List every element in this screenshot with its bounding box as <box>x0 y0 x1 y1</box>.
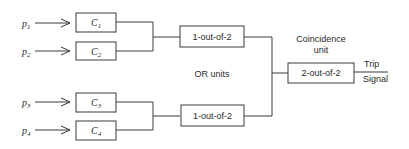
coincidence-unit-label: 2-out-of-2 <box>301 68 340 78</box>
output-label-trip: Trip <box>364 59 379 69</box>
input-label-p3: p3 <box>21 97 31 110</box>
voting-logic-diagram: p1 p2 p3 p4 C1 C2 C3 C4 1-out-of-2 1-out… <box>0 0 409 149</box>
or-units-caption: OR units <box>194 69 230 79</box>
connector-or-units <box>244 37 272 116</box>
connector-c1-c2 <box>116 22 153 51</box>
input-label-p2: p2 <box>21 46 31 59</box>
input-label-p1: p1 <box>21 18 31 31</box>
coincidence-caption-line2: unit <box>314 45 329 55</box>
coincidence-caption-line1: Coincidence <box>296 34 346 44</box>
connector-c3-c4 <box>116 102 153 130</box>
or-unit-label-top: 1-out-of-2 <box>192 32 231 42</box>
output-label-signal: Signal <box>363 74 388 84</box>
or-unit-label-bottom: 1-out-of-2 <box>193 111 232 121</box>
input-label-p4: p4 <box>21 125 31 138</box>
